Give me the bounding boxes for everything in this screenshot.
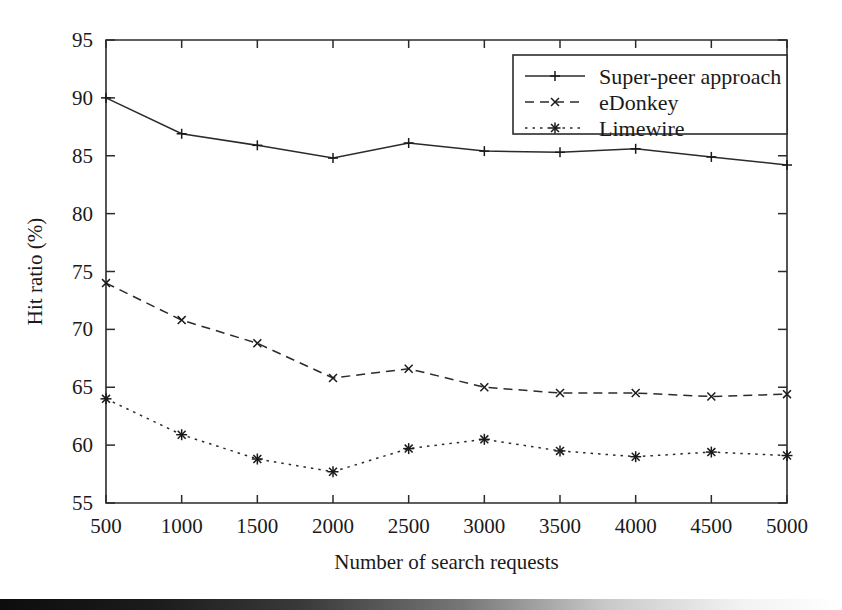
y-tick-label: 75 [72, 260, 93, 284]
y-tick-label: 85 [72, 144, 93, 168]
x-tick-label: 1000 [161, 514, 203, 538]
legend-entry-label: Limewire [599, 116, 685, 141]
y-tick-label: 60 [72, 433, 93, 457]
x-tick-label: 5000 [766, 514, 808, 538]
x-tick-label: 3000 [463, 514, 505, 538]
y-tick-label: 65 [72, 375, 93, 399]
y-tick-label: 80 [72, 202, 93, 226]
legend-entry-label: eDonkey [599, 90, 678, 115]
x-tick-label: 3500 [539, 514, 581, 538]
legend-entry-label: Super-peer approach [599, 64, 781, 89]
x-tick-label: 1500 [236, 514, 278, 538]
x-axis-title: Number of search requests [334, 550, 559, 574]
y-tick-label: 90 [72, 86, 93, 110]
scan-artifact-bar [0, 599, 842, 610]
x-tick-label: 2500 [388, 514, 430, 538]
line-chart: 500100015002000250030003500400045005000 … [0, 0, 842, 610]
x-tick-label: 500 [90, 514, 122, 538]
figure-container: 500100015002000250030003500400045005000 … [0, 0, 842, 610]
y-tick-label: 55 [72, 491, 93, 515]
y-axis-tick-labels: 556065707580859095 [72, 28, 93, 515]
y-tick-label: 95 [72, 28, 93, 52]
chart-legend: Super-peer approacheDonkeyLimewire [513, 55, 787, 141]
x-tick-label: 4500 [690, 514, 732, 538]
x-tick-label: 4000 [615, 514, 657, 538]
x-tick-label: 2000 [312, 514, 354, 538]
y-tick-label: 70 [72, 317, 93, 341]
y-axis-title: Hit ratio (%) [23, 218, 47, 325]
